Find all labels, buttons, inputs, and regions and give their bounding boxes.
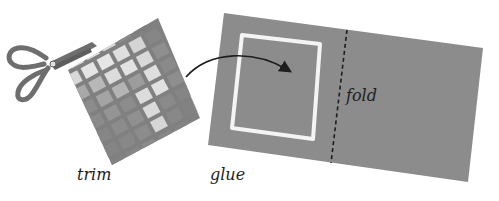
- patterned-paper-square: [57, 14, 207, 172]
- craft-instructions-illustration: trim glue fold: [0, 0, 499, 201]
- step-label-trim: trim: [77, 167, 111, 183]
- step-label-fold: fold: [346, 88, 377, 104]
- step-label-glue: glue: [210, 167, 245, 183]
